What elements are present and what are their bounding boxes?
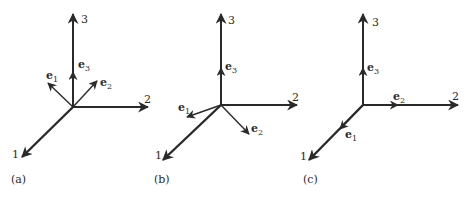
axis-1-label: 1 <box>300 150 307 163</box>
axis-2-label: 2 <box>144 93 151 106</box>
caption-a: (a) <box>11 173 26 186</box>
panel-a: 3 2 1 e3 e1 e2 (a) <box>11 13 151 186</box>
axis-1-arrow <box>163 105 221 160</box>
e1-label: e1 <box>178 101 190 116</box>
e3-label: e3 <box>367 61 379 76</box>
e3-label: e3 <box>225 60 237 75</box>
axis-3-label: 3 <box>372 16 379 29</box>
e1-vector <box>48 83 73 107</box>
axis-2-label: 2 <box>452 90 459 103</box>
axis-1-arrow <box>22 107 73 157</box>
e1-label: e1 <box>46 69 58 84</box>
axis-2-label: 2 <box>292 91 299 104</box>
panel-c: 3 2 1 e3 e2 e1 (c) <box>300 14 459 186</box>
e2-label: e2 <box>100 76 112 91</box>
e1-vector <box>340 105 363 129</box>
figure-svg: 3 2 1 e3 e1 e2 (a) 3 2 1 e3 e1 e2 (b) 3 … <box>0 0 466 197</box>
caption-c: (c) <box>303 173 318 186</box>
e2-vector <box>221 105 249 134</box>
axis-1-label: 1 <box>155 149 162 162</box>
axis-3-label: 3 <box>81 13 88 26</box>
axis-3-label: 3 <box>228 14 235 27</box>
coordinate-frames-figure: 3 2 1 e3 e1 e2 (a) 3 2 1 e3 e1 e2 (b) 3 … <box>0 0 466 197</box>
e2-label: e2 <box>251 122 263 137</box>
e3-label: e3 <box>78 58 90 73</box>
panel-b: 3 2 1 e3 e1 e2 (b) <box>154 14 299 186</box>
e2-vector <box>73 81 97 107</box>
e2-label: e2 <box>393 90 405 105</box>
caption-b: (b) <box>154 173 170 186</box>
axis-1-label: 1 <box>12 148 19 161</box>
e1-label: e1 <box>345 128 357 143</box>
